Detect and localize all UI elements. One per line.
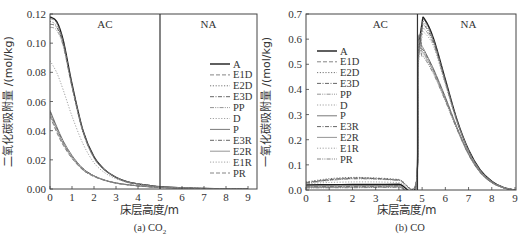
series-line-e3d (306, 24, 515, 190)
y-tick-label: 0.4 (288, 83, 302, 95)
plot-frame (50, 14, 257, 189)
y-tick-label: 0.0 (288, 184, 302, 196)
series-line-d (50, 61, 248, 189)
series-group (50, 17, 248, 189)
x-axis-label: 床层高度/m (120, 203, 179, 217)
legend-label-e1r: E1R (233, 157, 252, 168)
series-line-e2r (306, 40, 515, 196)
x-tick-label: 7 (201, 191, 207, 203)
legend-label-e1r: E1R (340, 143, 359, 154)
legend-label-e2r: E2R (233, 146, 252, 157)
legend-label-p: P (233, 124, 239, 135)
x-tick-label: 1 (326, 192, 332, 204)
y-tick-label: 0.10 (27, 37, 47, 49)
legend: AE1DE2DE3DPPDPE3RE2RE1RPR (210, 59, 253, 179)
legend-label-pr: PR (340, 154, 353, 165)
y-tick-label: 0.7 (288, 8, 302, 20)
x-tick-label: 7 (466, 192, 472, 204)
y-tick-label: 0.6 (288, 33, 302, 45)
y-tick-label: 0.12 (27, 8, 46, 20)
x-tick-label: 2 (350, 192, 356, 204)
region-label-ac: AC (373, 18, 388, 30)
x-tick-label: 9 (512, 192, 518, 204)
legend-label-e3r: E3R (233, 135, 252, 146)
legend-label-e1d: E1D (233, 69, 253, 80)
legend: AE1DE2DE3DPPDPE3RE2RE1RPR (317, 46, 360, 165)
legend-label-e1d: E1D (340, 56, 360, 67)
series-line-a (50, 17, 248, 189)
series-line-e1r (50, 115, 248, 189)
y-axis-label: 二氧化碳吸附量 /(mol/kg) (1, 36, 15, 166)
figure-canvas: 01234567890.000.020.040.060.080.100.12AC… (0, 0, 524, 243)
legend-label-e3r: E3R (340, 121, 359, 132)
y-tick-label: 0.02 (27, 154, 46, 166)
legend-label-pp: PP (340, 89, 352, 100)
co2-adsorption-chart: 01234567890.000.020.040.060.080.100.12AC… (1, 8, 257, 236)
series-line-e2d (306, 21, 515, 190)
x-tick-label: 2 (91, 191, 97, 203)
legend-label-d: D (340, 100, 348, 111)
y-tick-label: 0.1 (288, 159, 302, 171)
series-line-p (50, 110, 248, 189)
legend-label-e2d: E2D (233, 80, 253, 91)
series-line-e2d (50, 21, 248, 189)
x-tick-label: 8 (489, 192, 495, 204)
series-line-e1d (50, 18, 248, 188)
y-tick-label: 0.08 (27, 66, 47, 78)
y-tick-label: 0.04 (27, 125, 47, 137)
series-group (306, 17, 515, 196)
series-line-a (306, 17, 515, 192)
y-tick-label: 0.2 (288, 134, 302, 146)
legend-label-d: D (233, 113, 241, 124)
legend-label-a: A (233, 59, 241, 70)
x-tick-label: 6 (179, 191, 185, 203)
x-axis-label: 床层高度/m (377, 203, 436, 217)
series-line-e3r (50, 112, 248, 189)
y-axis-label: 一氧化碳吸附量 /(mol/kg) (259, 37, 273, 167)
x-tick-label: 1 (69, 191, 75, 203)
x-tick-label: 4 (135, 191, 141, 203)
series-line-e3r (306, 37, 515, 195)
y-tick-label: 0.3 (288, 109, 302, 121)
x-tick-label: 9 (245, 191, 251, 203)
x-tick-label: 5 (157, 191, 163, 203)
legend-label-pr: PR (233, 168, 246, 179)
region-label-ac: AC (97, 18, 112, 30)
legend-label-pp: PP (233, 102, 245, 113)
legend-label-e2d: E2D (340, 67, 360, 78)
series-line-pr (50, 116, 248, 189)
series-line-e3d (50, 24, 248, 189)
co-adsorption-chart: 01234567890.00.10.20.30.40.50.60.7ACNAAE… (259, 8, 518, 234)
x-tick-label: 3 (113, 191, 119, 203)
y-tick-label: 0.06 (27, 96, 47, 108)
figure-caption: (a) CO2 (134, 222, 167, 236)
series-line-d (306, 32, 515, 191)
plot-frame (306, 14, 516, 190)
x-tick-label: 0 (303, 192, 309, 204)
x-tick-label: 0 (47, 191, 53, 203)
region-label-na: NA (200, 18, 216, 30)
y-tick-label: 0.00 (27, 183, 47, 195)
x-tick-label: 8 (223, 191, 229, 203)
x-tick-label: 6 (443, 192, 449, 204)
series-line-p (306, 35, 515, 195)
legend-label-a: A (340, 46, 348, 57)
figure-caption: (b) CO (395, 222, 425, 234)
legend-label-e3d: E3D (233, 91, 253, 102)
region-label-na: NA (461, 18, 477, 30)
legend-label-p: P (340, 110, 346, 121)
series-line-pp (306, 28, 515, 190)
y-tick-label: 0.5 (288, 58, 302, 70)
legend-label-e3d: E3D (340, 78, 360, 89)
legend-label-e2r: E2R (340, 132, 359, 143)
series-line-e1d (306, 18, 515, 190)
